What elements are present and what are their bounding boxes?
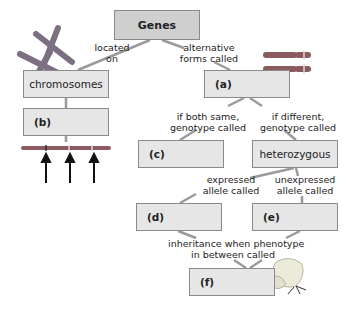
- node-label: (d): [147, 211, 164, 223]
- node-a: (a): [204, 70, 290, 98]
- node-c: (c): [138, 140, 224, 168]
- node-label: (b): [34, 116, 51, 128]
- edge-label-expressed-allele: expressed allele called: [196, 174, 266, 196]
- node-heterozygous: heterozygous: [252, 140, 338, 168]
- node-label: (c): [149, 148, 165, 160]
- node-b: (b): [23, 108, 109, 136]
- edge-label-if-different: if different, genotype called: [258, 111, 338, 133]
- node-genes: Genes: [114, 10, 200, 40]
- node-label: (e): [263, 211, 280, 223]
- node-label: chromosomes: [29, 78, 103, 90]
- node-label: (f): [200, 276, 214, 288]
- edge-label-inheritance: inheritance when phenotype in between ca…: [168, 238, 298, 260]
- edge-label-unexpressed-allele: unexpressed allele called: [270, 174, 340, 196]
- chromosome-loci-icon: [20, 145, 112, 185]
- node-d: (d): [136, 203, 222, 231]
- edge-label-alternative-forms: alternative forms called: [176, 42, 242, 64]
- node-label: Genes: [138, 19, 176, 32]
- edge-label-if-both-same: if both same, genotype called: [168, 111, 248, 133]
- edge-label-located-on: located on: [92, 42, 132, 64]
- node-e: (e): [252, 203, 338, 231]
- node-label: heterozygous: [259, 148, 330, 160]
- node-chromosomes: chromosomes: [23, 70, 109, 98]
- node-label: (a): [215, 78, 232, 90]
- node-f: (f): [189, 268, 275, 296]
